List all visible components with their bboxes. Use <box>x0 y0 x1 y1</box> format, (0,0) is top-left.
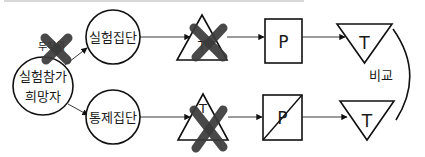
experimental-posttest-node: T <box>337 24 392 63</box>
participants-label-line1: 실험참가 <box>19 69 67 84</box>
participants-label-line2: 희망자 <box>25 89 61 104</box>
experimental-pretest-node: T <box>177 15 227 60</box>
control-posttest-node: T <box>340 101 394 140</box>
control-group-row: 통제집단 T P T <box>86 90 394 148</box>
control-posttest-label: T <box>361 111 373 131</box>
comparison-label: 비교 <box>369 68 393 83</box>
comparison-arc <box>393 29 410 120</box>
experimental-design-diagram: 실험참가 희망자 무작위 실험집단 T P <box>0 0 425 157</box>
control-group-node: 통제집단 <box>86 90 140 144</box>
link-participants-to-control <box>68 104 88 115</box>
experimental-group-node: 실험집단 <box>86 10 140 64</box>
experimental-group-label: 실험집단 <box>89 30 137 45</box>
participants-node: 실험참가 희망자 <box>13 57 73 115</box>
experimental-treatment-label: P <box>278 32 288 52</box>
control-pretest-node: T <box>178 94 228 148</box>
experimental-treatment-node: P <box>265 19 302 63</box>
control-treatment-node: P <box>263 95 302 140</box>
experimental-group-row: 실험집단 T P T <box>86 10 392 64</box>
control-group-label: 통제집단 <box>89 110 137 125</box>
experimental-posttest-label: T <box>358 33 370 53</box>
clipped-header-text <box>4 0 304 2</box>
